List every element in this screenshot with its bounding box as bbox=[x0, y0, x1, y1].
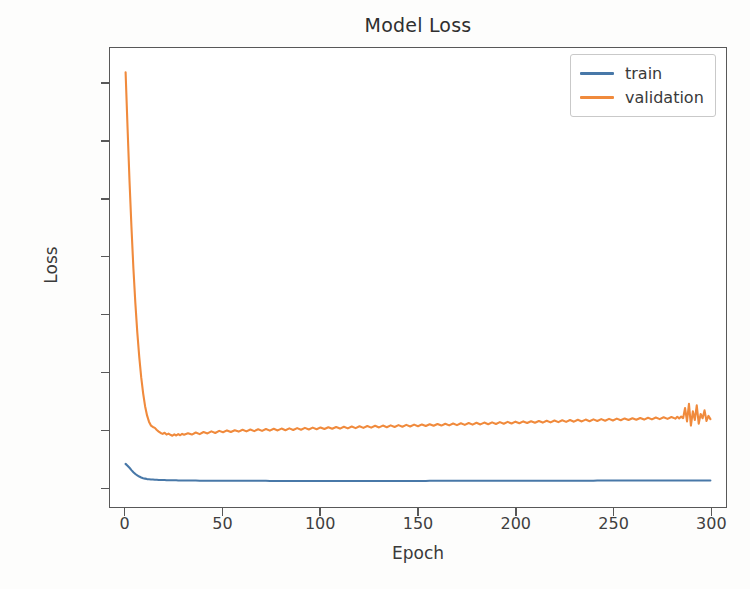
x-tick-label: 100 bbox=[280, 514, 360, 533]
legend-item-validation[interactable]: validation bbox=[580, 85, 707, 109]
x-tick-label: 0 bbox=[85, 514, 165, 533]
y-tick-mark bbox=[101, 140, 109, 142]
x-axis-label: Epoch bbox=[109, 543, 727, 563]
legend-label: train bbox=[625, 64, 662, 83]
legend-item-train[interactable]: train bbox=[580, 61, 707, 85]
series-line-train bbox=[126, 464, 711, 481]
figure-canvas: Model Loss 0.0000.0250.0500.0750.1000.12… bbox=[0, 0, 750, 589]
y-axis-label: Loss bbox=[41, 205, 61, 325]
x-tick-mark bbox=[319, 508, 321, 516]
legend-swatch-train bbox=[580, 72, 614, 75]
x-tick-mark bbox=[515, 508, 517, 516]
x-tick-mark bbox=[613, 508, 615, 516]
x-tick-label: 200 bbox=[476, 514, 556, 533]
legend-swatch-validation bbox=[580, 96, 614, 99]
y-tick-mark bbox=[101, 314, 109, 316]
x-tick-mark bbox=[711, 508, 713, 516]
y-tick-mark bbox=[101, 488, 109, 490]
x-tick-label: 50 bbox=[182, 514, 262, 533]
y-tick-mark bbox=[101, 372, 109, 374]
x-tick-mark bbox=[417, 508, 419, 516]
x-tick-mark bbox=[222, 508, 224, 516]
x-tick-label: 250 bbox=[574, 514, 654, 533]
x-tick-label: 300 bbox=[671, 514, 750, 533]
legend: trainvalidation bbox=[570, 54, 716, 117]
y-tick-mark bbox=[101, 430, 109, 432]
series-layer bbox=[126, 72, 711, 481]
series-line-validation bbox=[126, 72, 711, 436]
page-title: Model Loss bbox=[109, 14, 727, 36]
x-tick-mark bbox=[124, 508, 126, 516]
y-tick-mark bbox=[101, 256, 109, 258]
x-tick-label: 150 bbox=[378, 514, 458, 533]
y-tick-mark bbox=[101, 82, 109, 84]
y-tick-mark bbox=[101, 198, 109, 200]
legend-label: validation bbox=[625, 88, 704, 107]
